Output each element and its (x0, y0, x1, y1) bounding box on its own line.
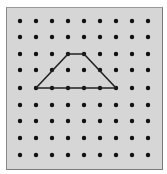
peg-dot (34, 119, 38, 123)
peg-dot (98, 103, 102, 107)
peg-dot (98, 153, 102, 157)
peg-dot (146, 119, 150, 123)
peg-dot (114, 35, 118, 39)
peg-dot (50, 35, 54, 39)
peg-dot (50, 153, 54, 157)
peg-dot (82, 136, 86, 140)
peg-dot (130, 136, 134, 140)
peg-dot (66, 68, 70, 72)
peg-dot (130, 119, 134, 123)
peg-dot (146, 86, 150, 90)
peg-dot (114, 153, 118, 157)
peg-dot (146, 19, 150, 23)
peg-dot (34, 153, 38, 157)
peg-dot (146, 52, 150, 56)
peg-dot (18, 86, 22, 90)
peg-dot (18, 52, 22, 56)
peg-dot (130, 103, 134, 107)
peg-dot (82, 35, 86, 39)
peg-dot (114, 19, 118, 23)
peg-dot (146, 136, 150, 140)
peg-dot (98, 52, 102, 56)
peg-dot (130, 153, 134, 157)
peg-dot (66, 136, 70, 140)
peg-dot (98, 119, 102, 123)
peg-dot (18, 19, 22, 23)
peg-dot (34, 19, 38, 23)
peg-dot (146, 103, 150, 107)
trapezoid-shape (36, 54, 116, 88)
peg-dot (50, 52, 54, 56)
peg-dot (66, 35, 70, 39)
geoboard-grid (0, 0, 167, 174)
peg-dot (82, 68, 86, 72)
peg-dot (98, 136, 102, 140)
peg-dot (18, 35, 22, 39)
peg-dot (34, 103, 38, 107)
peg-dot (82, 153, 86, 157)
peg-dot (50, 103, 54, 107)
peg-dot (50, 136, 54, 140)
peg-dot (114, 136, 118, 140)
peg-dot (130, 86, 134, 90)
peg-dot (18, 136, 22, 140)
peg-dot (82, 19, 86, 23)
peg-dot (82, 119, 86, 123)
peg-dot (82, 103, 86, 107)
peg-dot (50, 119, 54, 123)
peg-dot (34, 136, 38, 140)
peg-dot (18, 103, 22, 107)
peg-dot (66, 19, 70, 23)
peg-dot (66, 119, 70, 123)
peg-dot (66, 103, 70, 107)
peg-dot (18, 153, 22, 157)
peg-dot (146, 68, 150, 72)
peg-dot (130, 19, 134, 23)
peg-dot (130, 52, 134, 56)
peg-dot (146, 153, 150, 157)
peg-dot (146, 35, 150, 39)
peg-dot (130, 68, 134, 72)
peg-dot (114, 119, 118, 123)
peg-dot (50, 19, 54, 23)
peg-dot (114, 52, 118, 56)
peg-dot (114, 68, 118, 72)
peg-dot (18, 119, 22, 123)
peg-dot (98, 19, 102, 23)
peg-dot (98, 35, 102, 39)
peg-dot (18, 68, 22, 72)
peg-dot (66, 153, 70, 157)
peg-dot (34, 52, 38, 56)
peg-dot (130, 35, 134, 39)
peg-dot (34, 68, 38, 72)
peg-dot (34, 35, 38, 39)
peg-dot (114, 103, 118, 107)
